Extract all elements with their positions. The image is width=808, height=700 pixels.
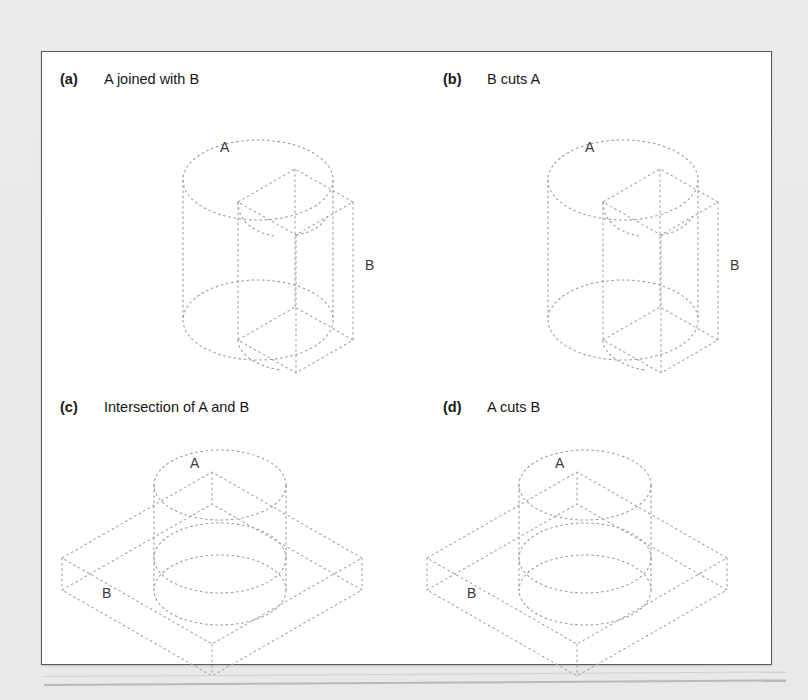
panel-a-tag: (a) <box>60 72 104 87</box>
solid-a-cylinder <box>183 140 333 360</box>
solid-b-label: B <box>102 585 111 601</box>
panel-d-drawing: A B <box>407 430 773 670</box>
figure-frame: (a)A joined with B <box>41 51 772 665</box>
panel-a: (a)A joined with B <box>42 52 407 362</box>
panel-d: (d)A cuts B A B <box>407 362 773 666</box>
panel-d-caption: (d)A cuts B <box>443 400 540 415</box>
solid-a-cylinder <box>548 140 698 360</box>
panel-c: (c)Intersection of A and B <box>42 362 407 666</box>
panel-b: (b)B cuts A A B <box>407 52 773 362</box>
solid-b-slab <box>427 472 727 676</box>
panel-c-drawing: A B <box>42 430 407 670</box>
solid-b-label: B <box>467 585 476 601</box>
panel-a-drawing: A B <box>42 102 407 372</box>
solid-b-slab <box>603 169 718 373</box>
panel-a-caption-text: A joined with B <box>104 71 199 87</box>
panel-b-caption-text: B cuts A <box>487 71 540 87</box>
panel-b-caption: (b)B cuts A <box>443 72 540 87</box>
panel-d-tag: (d) <box>443 400 487 415</box>
solid-b-slab <box>238 169 353 373</box>
panel-b-drawing: A B <box>407 102 773 372</box>
panel-b-tag: (b) <box>443 72 487 87</box>
solid-a-label: A <box>555 455 565 471</box>
solid-a-cylinder <box>519 450 651 625</box>
panel-c-caption: (c)Intersection of A and B <box>60 400 249 415</box>
solid-a-label: A <box>220 139 230 155</box>
solid-b-label: B <box>365 257 374 273</box>
solid-a-cylinder <box>154 450 286 625</box>
solid-a-label: A <box>585 139 595 155</box>
panel-c-caption-text: Intersection of A and B <box>104 399 249 415</box>
solid-b-label: B <box>730 257 739 273</box>
solid-b-slab <box>62 472 362 676</box>
panel-c-tag: (c) <box>60 400 104 415</box>
panel-d-caption-text: A cuts B <box>487 399 540 415</box>
solid-a-label: A <box>190 455 200 471</box>
panel-a-caption: (a)A joined with B <box>60 72 199 87</box>
